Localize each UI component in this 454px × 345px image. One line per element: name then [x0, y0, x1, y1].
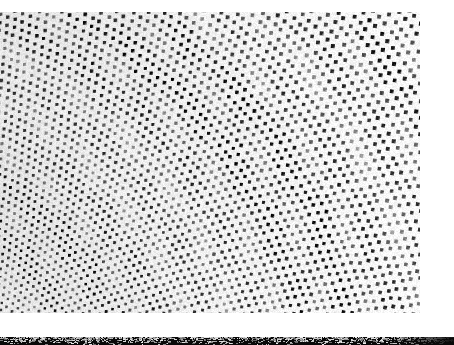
- micrograph-image: [0, 0, 454, 316]
- figure-root: [0, 0, 454, 345]
- lower-micrograph-panel: [0, 337, 454, 345]
- lower-micrograph-image: [0, 337, 454, 345]
- panel-gap: [0, 316, 454, 337]
- main-micrograph-panel: [0, 0, 454, 316]
